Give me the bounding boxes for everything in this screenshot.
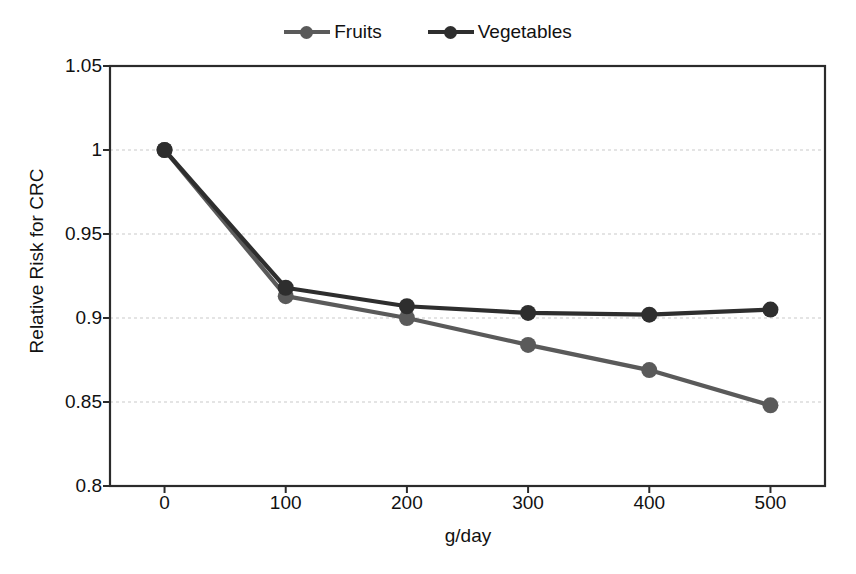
data-point-fruits-500 (762, 397, 778, 413)
data-point-vegetables-200 (399, 298, 415, 314)
chart-container: Fruits Vegetables Relative Risk for CRC … (0, 0, 856, 574)
data-point-vegetables-0 (157, 142, 173, 158)
plot-frame (110, 66, 825, 486)
data-point-vegetables-400 (641, 307, 657, 323)
plot-area (0, 0, 856, 574)
data-point-vegetables-100 (278, 280, 294, 296)
data-point-vegetables-500 (762, 302, 778, 318)
data-point-vegetables-300 (520, 305, 536, 321)
series-line-fruits (165, 150, 771, 405)
data-point-fruits-400 (641, 362, 657, 378)
data-point-fruits-300 (520, 337, 536, 353)
series-line-vegetables (165, 150, 771, 315)
